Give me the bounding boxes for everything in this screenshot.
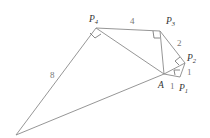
length-AP1: 1 xyxy=(170,81,175,91)
edge-O-A xyxy=(16,74,164,135)
length-P4P3: 4 xyxy=(130,16,135,26)
right-angle-P3 xyxy=(153,31,160,38)
edge-P3-A xyxy=(160,31,164,74)
label-P4: P4 xyxy=(88,14,99,25)
length-OP4: 8 xyxy=(50,70,55,80)
label-P3: P3 xyxy=(165,16,176,27)
label-P2: P2 xyxy=(186,53,197,64)
right-angle-P2 xyxy=(175,57,180,65)
point-labels: P4 P3 P2 P1 A xyxy=(88,14,197,94)
label-A: A xyxy=(157,80,164,90)
length-P2P1: 1 xyxy=(187,67,192,77)
right-angle-markers xyxy=(90,31,180,75)
length-P3P2: 2 xyxy=(177,38,182,48)
label-P1: P1 xyxy=(178,83,188,94)
length-labels: 4 2 1 1 8 xyxy=(50,16,192,91)
edge-P4-P3 xyxy=(96,28,160,31)
edge-A-P1 xyxy=(164,74,180,77)
right-angle-P1 xyxy=(174,70,180,75)
geometry-diagram: P4 P3 P2 P1 A 4 2 1 1 8 xyxy=(0,0,210,138)
